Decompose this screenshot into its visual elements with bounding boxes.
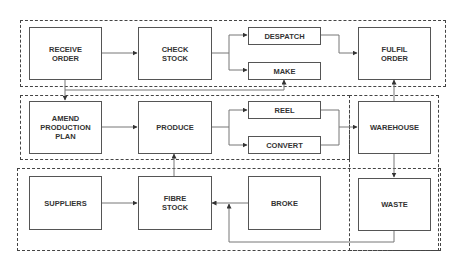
- node-receive-order: RECEIVE ORDER: [29, 27, 102, 80]
- node-produce: PRODUCE: [138, 101, 212, 154]
- node-fulfil-order: FULFIL ORDER: [358, 27, 431, 80]
- node-waste: WASTE: [358, 178, 431, 231]
- node-fibre-stock: FIBRE STOCK: [138, 176, 212, 230]
- node-reel: REEL: [248, 101, 321, 119]
- node-amend-production-plan: AMEND PRODUCTION PLAN: [29, 101, 102, 154]
- node-check-stock: CHECK STOCK: [138, 27, 212, 80]
- node-despatch: DESPATCH: [248, 27, 321, 45]
- node-warehouse: WAREHOUSE: [358, 101, 431, 154]
- node-broke: BROKE: [248, 176, 321, 230]
- node-suppliers: SUPPLIERS: [29, 176, 102, 230]
- node-make: MAKE: [248, 62, 321, 80]
- node-convert: CONVERT: [248, 136, 321, 154]
